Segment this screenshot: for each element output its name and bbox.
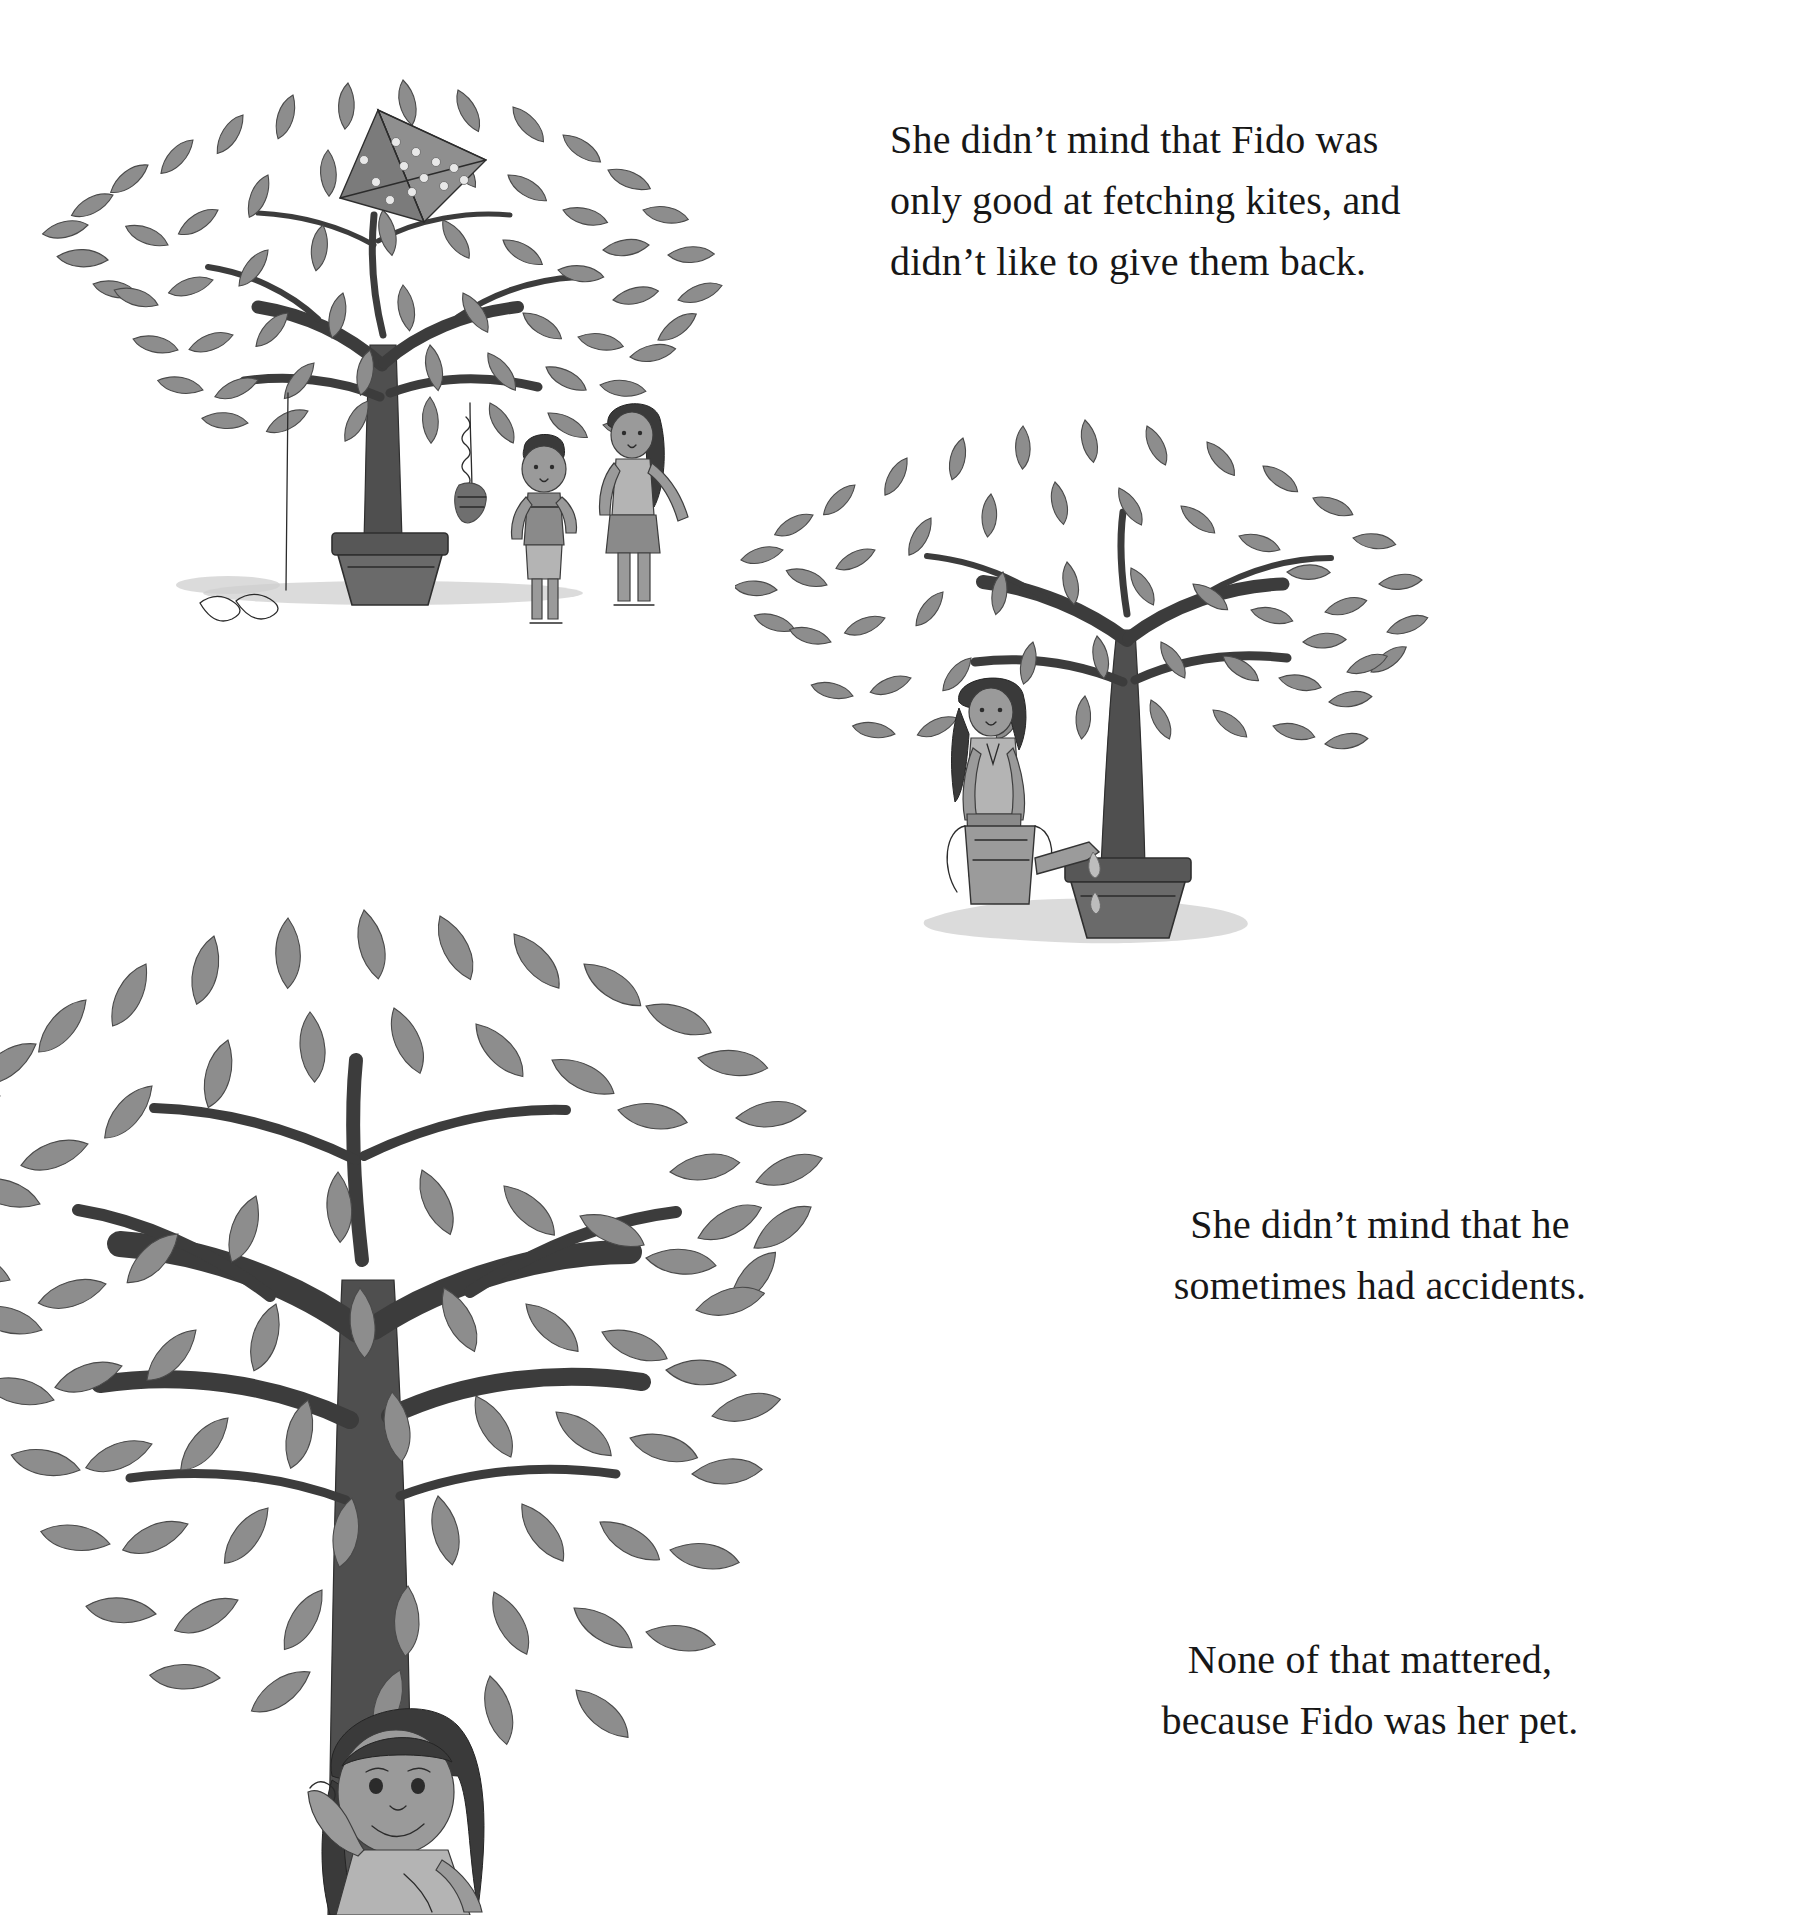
tree-canopy: [0, 908, 826, 1748]
kite-tail: [455, 403, 486, 523]
kite-icon: [340, 110, 486, 222]
flower-pot: [332, 533, 448, 605]
flower-pot: [1065, 858, 1191, 938]
girl-figure: [600, 404, 688, 605]
tree-canopy: [735, 419, 1430, 749]
story-paragraph-pet: None of that mattered, because Fido was …: [1040, 1630, 1700, 1752]
illustration-kite-tree: [18, 45, 778, 625]
story-paragraph-kites: She didn’t mind that Fido was only good …: [890, 110, 1570, 292]
illustration-hug-tree: [0, 860, 910, 1915]
story-paragraph-accidents: She didn’t mind that he sometimes had ac…: [1060, 1195, 1700, 1317]
